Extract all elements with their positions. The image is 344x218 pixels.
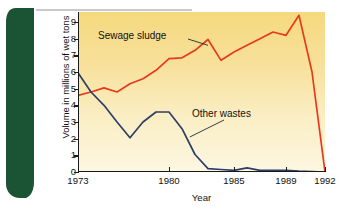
figure-tab-shape bbox=[6, 8, 34, 198]
leader-other-wastes bbox=[190, 120, 224, 137]
x-tick-label: 1980 bbox=[158, 175, 179, 186]
x-axis-line bbox=[78, 171, 325, 172]
series-line-other-wastes bbox=[78, 73, 325, 172]
y-tick-mark bbox=[74, 22, 79, 23]
y-tick-mark bbox=[74, 139, 79, 140]
x-tick-label: 1973 bbox=[67, 175, 88, 186]
x-tick-mark bbox=[325, 167, 326, 172]
y-tick-mark bbox=[74, 89, 79, 90]
x-tick-mark bbox=[234, 167, 235, 172]
y-axis-tick-labels: 0123456789 bbox=[54, 12, 76, 172]
series-label-sewage-sludge: Sewage sludge bbox=[98, 30, 166, 41]
line-chart: Volume in millions of wet tons 012345678… bbox=[44, 12, 340, 212]
x-tick-label: 1992 bbox=[314, 175, 335, 186]
y-tick-mark bbox=[74, 55, 79, 56]
y-tick-mark bbox=[74, 39, 79, 40]
x-tick-mark bbox=[78, 167, 79, 172]
series-label-other-wastes: Other wastes bbox=[192, 108, 251, 119]
x-tick-label: 1985 bbox=[223, 175, 244, 186]
x-tick-label: 1989 bbox=[275, 175, 296, 186]
figure-number-tab: figure 24-13 bbox=[6, 8, 34, 198]
x-axis-title: Year bbox=[78, 192, 325, 203]
figure-container: figure 24-13 Volume in millions of wet t… bbox=[0, 0, 344, 218]
y-tick-mark bbox=[74, 122, 79, 123]
x-tick-mark bbox=[286, 167, 287, 172]
y-tick-mark bbox=[74, 105, 79, 106]
y-tick-mark bbox=[74, 155, 79, 156]
y-tick-mark bbox=[74, 172, 79, 173]
y-axis-line bbox=[78, 12, 79, 172]
x-tick-mark bbox=[169, 167, 170, 172]
y-tick-mark bbox=[74, 72, 79, 73]
